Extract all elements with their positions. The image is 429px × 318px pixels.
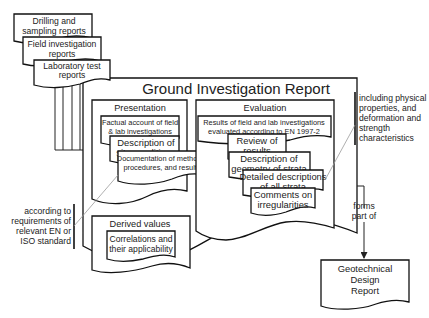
left-annot-line4: ISO standard [20, 236, 71, 246]
factual-line1: Factual account of field [102, 118, 178, 127]
arrow-label-line2: part of [352, 211, 377, 221]
main-title: Ground Investigation Report [142, 80, 330, 97]
right-annot-line5: characteristics [359, 133, 414, 143]
gdr-line2: Design [350, 274, 379, 285]
factual-line2: & lab investigations [108, 127, 172, 136]
results-line1: Results of field and lab investigations [203, 118, 325, 127]
documentation-line1: Documentation of methods, [117, 154, 207, 163]
left-annot-line1: according to [24, 206, 71, 216]
comments-line2: irregularities [257, 199, 308, 210]
left-annot-line2: requirements of [11, 216, 71, 226]
arrow-label-line1: forms [353, 201, 374, 211]
diagram-canvas: Drilling and sampling reports Field inve… [0, 0, 429, 318]
correlations-line2: their applicability [109, 244, 173, 254]
field-label-line2: reports [49, 49, 76, 59]
gdr-line3: Report [351, 285, 380, 296]
field-label-line1: Field investigation [28, 39, 97, 49]
correlations-line1: Correlations and [109, 234, 172, 244]
derived-heading: Derived values [110, 219, 171, 229]
presentation-heading: Presentation [114, 103, 166, 113]
right-annot-line2: properties, and [359, 103, 417, 113]
documentation-line2: procedures, and results [123, 163, 201, 172]
evaluation-heading: Evaluation [244, 103, 287, 113]
right-annot-line3: deformation and [359, 113, 421, 123]
left-annot-line3: relevant EN or [16, 226, 71, 236]
drilling-label-line1: Drilling and [33, 16, 76, 26]
right-annot-line4: strength [359, 123, 390, 133]
lab-label-line2: reports [59, 70, 86, 80]
drilling-label-line2: sampling reports [22, 26, 86, 36]
right-annot-line1: including physical [359, 93, 426, 103]
gdr-line1: Geotechnical [338, 263, 393, 274]
